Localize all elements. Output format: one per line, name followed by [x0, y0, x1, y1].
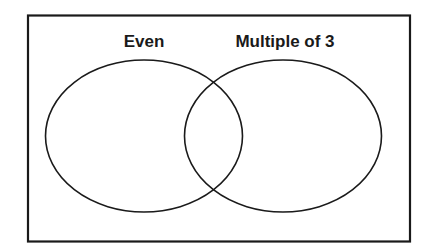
- universal-set-box: [28, 16, 410, 242]
- set-label-even: Even: [124, 32, 165, 51]
- set-label-multiple-of-3: Multiple of 3: [235, 32, 334, 51]
- venn-diagram: Even Multiple of 3: [0, 0, 432, 247]
